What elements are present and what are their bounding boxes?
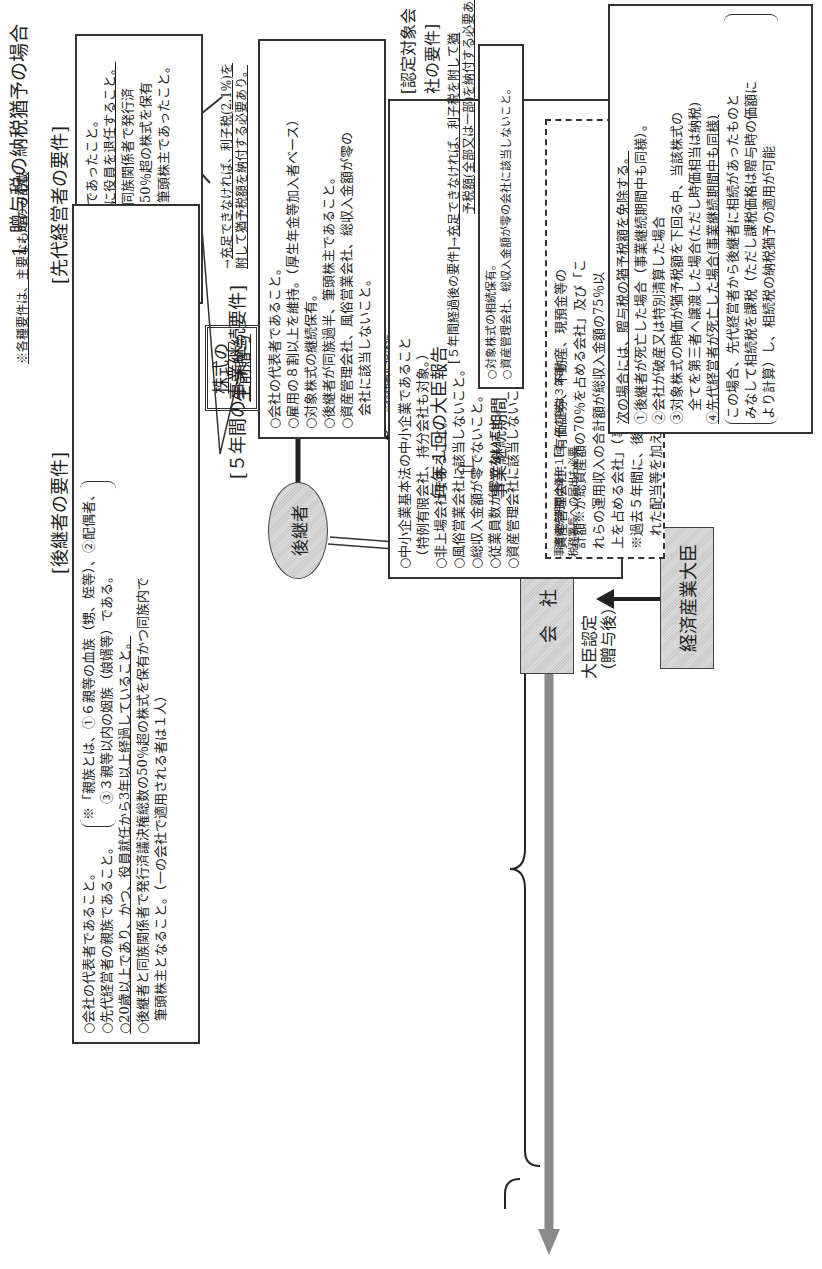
after-five-requirements-box: ○対象株式の相続保有。 ○資産管理会社、総収入金額が零の会社に該当しないこと。 (478, 44, 524, 389)
company-req-item: （特例有限会社、持分会社も対象。） (414, 109, 432, 569)
kinship-note: ※「親族とは、①６親等の血族（甥、姪等）、②配偶者、 ③３親等以内の姻族（娘婿等… (80, 481, 116, 827)
exemption-sub-line: みなして相続税を課税（ただし課税価格は贈与時の価額に (742, 19, 760, 419)
company-node-label: 会 社 (534, 589, 560, 643)
after-five-heading: [５年間経過後の要件] (447, 247, 461, 364)
consequence-line: 充足できなければ、利子税(2.1%)を (220, 63, 234, 259)
exemption-subnote: この場合、先代経営者から後継者に相続があったものと みなして相続税を課税（ただし… (724, 14, 778, 424)
diagram-page: 1. 贈与税の納税猶予の場合 ※各種要件は、主要なもののみ記載 [先代経営者の要… (0, 0, 822, 1269)
exemption-item: ③対象株式の時価が猶予税額を下回る中、当該株式の (668, 14, 686, 424)
asset-note-line: れらの運用収入の合計額が総収入金額の75％以 (589, 129, 608, 549)
after-five-consequence: 充足できなければ、利子税を附して猶 (447, 33, 461, 237)
exemption-item: ②会社が破産又は特別清算した場合 (650, 14, 668, 424)
five-year-item: ○会社の代表者であること。 (266, 49, 284, 429)
after-five-consequence: 予税額(全部又は一部)を納付する必要あり。 (462, 0, 477, 364)
certification-label: 大臣認定 （贈与後） (580, 599, 618, 679)
kinship-note-line: ③３親等以内の姻族（娘婿等）である。 (98, 488, 116, 820)
five-year-item: ○雇用の８割以上を維持。（厚生年金等加入者ベース） (284, 49, 302, 429)
five-year-item: ○対象株式の継続保有。 (302, 49, 320, 429)
exemption-item: 全てを第三者へ譲渡した場合(ただし時価相当は納税) (686, 14, 704, 424)
company-req-item: ○中小企業基本法の中小企業であること (396, 109, 414, 569)
successor-item: ○20歳以上であり、かつ、役員就任から3年以上経過していること。 (116, 214, 134, 1034)
successor-item: ○会社の代表者であること。 (80, 841, 98, 1034)
exemption-item: ①後継者が死亡した場合（事業継続期間中も同様）。 (632, 14, 650, 424)
successor-requirements-box: ○会社の代表者であること。 ○先代経営者の親族であること。 ※「親族とは、①６親… (72, 204, 200, 1044)
after-five-header: [５年間経過後の要件]→充足できなければ、利子税を附して猶 予税額(全部又は一部… (447, 0, 477, 364)
exemption-sub-line: この場合、先代経営者から後継者に相続があったものと (724, 19, 742, 419)
exemption-item: ④先代経営者が死亡した場合(事業継続期間中も同様) (704, 14, 722, 424)
exemption-intro: 次の場合には、贈与税の猶予税額を免除する。 (614, 14, 632, 424)
successor-item: 筆頭株主となること。（一の会社で適用される者は１人） (152, 214, 170, 1034)
up-arrow-icon: ⇧ (452, 459, 480, 479)
exemption-box: 次の場合には、贈与税の猶予税額を免除する。 ①後継者が死亡した場合（事業継続期間… (608, 4, 813, 434)
successor-node-label: 後継者 (286, 505, 311, 556)
five-year-heading: [５年間の事業継続要件] (223, 285, 249, 479)
timeline-note-line: 税務署長への届出も必要 (566, 357, 580, 557)
arrow-right-icon: → (447, 237, 461, 247)
certification-sub: （贈与後） (599, 599, 618, 679)
kinship-note-line: ※「親族とは、①６親等の血族（甥、姪等）、②配偶者、 (80, 488, 98, 820)
five-year-consequence: →充足できなければ、利子税(2.1%)を 附して猶予税額を納付する必要あり。 (220, 63, 250, 269)
minister-label: 経済産業大臣 (674, 544, 700, 652)
five-year-item: ○資産管理会社、風俗営業会社、総収入金額が零の (338, 49, 356, 429)
consequence-line: 附して猶予税額を納付する必要あり。 (235, 63, 250, 269)
after-five-item: ○資産管理会社、総収入金額が零の会社に該当しないこと。 (499, 54, 514, 379)
successor-heading: [後継者の要件] (45, 452, 71, 574)
requirements-note: ※各種要件は、主要なもののみ記載 (14, 172, 32, 364)
successor-node: 後継者 (268, 482, 328, 579)
annual-report-label: 毎年１回の大臣報告 (425, 346, 450, 499)
successor-item: ○先代経営者の親族であること。 (98, 841, 116, 1034)
timeline-note: 事業継続期間は毎年１回、その後は３年毎に 税務署長への届出も必要 (552, 357, 580, 557)
successor-item: ○後継者と同族関係者で発行済議決権総数の50％超の株式を保有かつ同族内で (134, 214, 152, 1034)
five-year-requirements-box: ○会社の代表者であること。 ○雇用の８割以上を維持。（厚生年金等加入者ベース） … (258, 39, 386, 439)
company-req-heading: [認定対象会社の要件] (395, 0, 443, 94)
timeline-note-line: 事業継続期間は毎年１回、その後は３年毎に (552, 357, 566, 557)
minister-node: 経済産業大臣 (660, 527, 714, 669)
five-year-item: ○後継者が同族過半、筆頭株主であること。 (320, 49, 338, 429)
arrow-right-icon: → (220, 259, 234, 269)
certification-text: 大臣認定 (580, 599, 599, 679)
predecessor-heading: [先代経営者の要件] (45, 126, 71, 284)
exemption-sub-line: より計算）し、相続税の納税猶予の適用が可能 (760, 19, 778, 419)
after-five-item: ○対象株式の相続保有。 (484, 54, 499, 379)
five-year-item: 会社に該当しないこと。 (356, 49, 374, 429)
